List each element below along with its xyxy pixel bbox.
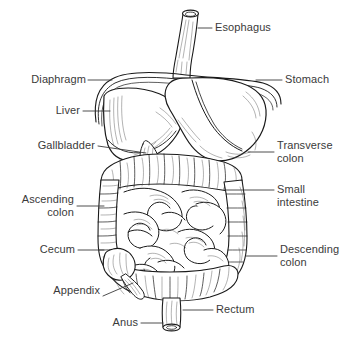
rectum-organ [162, 298, 181, 327]
stomach-organ [165, 78, 266, 161]
label-transverse-colon: Transverse colon [277, 139, 353, 164]
label-gallbladder: Gallbladder [4, 139, 95, 152]
label-diaphragm: Diaphragm [8, 73, 86, 86]
label-appendix: Appendix [8, 284, 100, 297]
label-anus: Anus [88, 316, 138, 329]
anus-organ [163, 324, 180, 331]
label-cecum: Cecum [8, 243, 75, 256]
esophagus-organ [173, 10, 199, 78]
cecum-organ [103, 248, 135, 280]
label-esophagus: Esophagus [215, 21, 325, 34]
label-descending-colon: Descending colon [280, 243, 353, 268]
label-stomach: Stomach [285, 73, 353, 86]
label-rectum: Rectum [216, 303, 286, 316]
label-ascending-colon: Ascending colon [2, 193, 74, 218]
anatomy-figure: Diaphragm Liver Gallbladder Ascending co… [0, 0, 353, 343]
label-small-intestine: Small intestine [277, 183, 353, 208]
label-liver: Liver [8, 104, 80, 117]
